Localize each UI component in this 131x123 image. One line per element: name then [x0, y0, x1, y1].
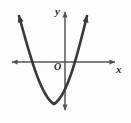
origin-label: O: [54, 62, 61, 72]
parabola-curve: [19, 16, 87, 104]
graph-canvas: [0, 0, 131, 123]
coordinate-plane-figure: y x O: [0, 0, 131, 123]
x-axis-label: x: [116, 64, 122, 75]
y-axis-label: y: [55, 6, 60, 17]
